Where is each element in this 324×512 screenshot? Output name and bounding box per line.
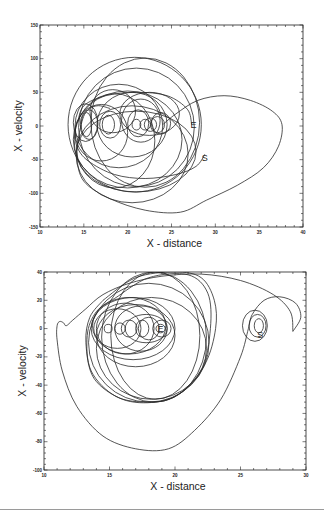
- trajectory-outer-spiral: [57, 274, 301, 451]
- y-tick-label: -20: [35, 354, 42, 359]
- start-point-label: S: [202, 153, 208, 163]
- figure: 10152025303540-150-100-50050100150X - di…: [0, 0, 324, 512]
- end-point-label: E: [158, 324, 164, 334]
- x-tick-label: 20: [125, 230, 131, 235]
- y-tick-label: -50: [31, 157, 38, 162]
- y-tick-label: -60: [35, 411, 42, 416]
- x-tick-label: 25: [169, 230, 175, 235]
- trajectory-loop: [132, 119, 141, 130]
- y-axis-label: X - velocity: [16, 345, 28, 397]
- axis-ticks: [40, 25, 303, 227]
- x-tick-label: 30: [303, 473, 309, 478]
- y-tick-label: 150: [30, 23, 38, 28]
- y-tick-label: -80: [35, 439, 42, 444]
- x-tick-label: 15: [107, 473, 113, 478]
- bottom-phase-plot: 1015202530-100-80-60-40-2002040X - dista…: [16, 270, 309, 492]
- plot-frame: [44, 272, 306, 470]
- x-tick-label: 30: [213, 230, 219, 235]
- trajectory: [68, 57, 282, 213]
- trajectory-loop: [76, 106, 188, 203]
- trajectory-loop: [77, 111, 196, 192]
- trajectory-loop: [136, 320, 149, 337]
- x-tick-label: 40: [300, 230, 306, 235]
- trajectory-loop: [120, 92, 180, 135]
- y-tick-label: -100: [33, 468, 43, 473]
- y-tick-label: 20: [37, 298, 43, 303]
- y-tick-label: 0: [35, 124, 38, 129]
- top-phase-plot: 10152025303540-150-100-50050100150X - di…: [12, 23, 306, 249]
- y-tick-label: -40: [35, 383, 42, 388]
- y-tick-label: 100: [30, 56, 38, 61]
- axis-ticks: [44, 272, 306, 470]
- y-tick-label: -150: [29, 225, 39, 230]
- y-tick-label: -100: [29, 191, 39, 196]
- x-tick-label: 15: [81, 230, 87, 235]
- plot-frame: [40, 25, 303, 227]
- bottom-separator-line: [0, 509, 324, 510]
- x-tick-label: 10: [41, 473, 47, 478]
- y-tick-label: 0: [39, 326, 42, 331]
- trajectory-big-loop: [86, 272, 217, 403]
- end-point-label: E: [190, 120, 196, 130]
- trajectory: [57, 272, 301, 451]
- x-axis-label: X - distance: [147, 237, 203, 249]
- x-tick-label: 20: [172, 473, 178, 478]
- trajectory-loop: [121, 320, 137, 337]
- x-tick-label: 25: [238, 473, 244, 478]
- x-axis-label: X - distance: [150, 480, 206, 492]
- trajectory-loop: [128, 110, 149, 137]
- trajectory-loop: [91, 58, 200, 187]
- y-tick-label: 50: [33, 90, 39, 95]
- y-tick-label: 40: [37, 270, 43, 275]
- x-tick-label: 10: [37, 230, 43, 235]
- trajectory-loop: [79, 68, 195, 187]
- x-tick-label: 35: [257, 230, 263, 235]
- trajectory-loop: [115, 323, 125, 334]
- start-point-label: S: [257, 330, 263, 340]
- y-axis-label: X - velocity: [12, 100, 24, 152]
